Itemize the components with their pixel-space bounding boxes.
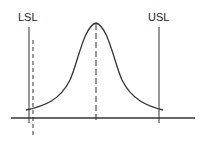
capability-diagram: LSL USL bbox=[0, 0, 203, 145]
usl-label: USL bbox=[148, 11, 169, 23]
normal-distribution-curve bbox=[26, 23, 163, 110]
lsl-label: LSL bbox=[18, 11, 38, 23]
